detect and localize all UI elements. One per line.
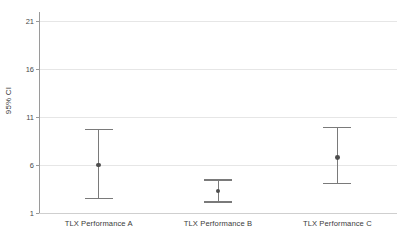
y-axis-tick-label: 6 bbox=[30, 161, 34, 170]
y-axis-tick-label: 16 bbox=[26, 65, 34, 74]
gridline bbox=[40, 69, 397, 70]
error-bar-cap-lower bbox=[204, 201, 232, 202]
y-axis-tick-mark bbox=[36, 117, 39, 118]
x-axis-label: TLX Performance B bbox=[184, 219, 252, 228]
gridline bbox=[40, 165, 397, 166]
error-bar-cap-lower bbox=[323, 183, 351, 184]
y-axis-tick-label: 11 bbox=[26, 113, 34, 122]
error-bar-cap-upper bbox=[204, 179, 232, 180]
mean-marker bbox=[216, 189, 221, 194]
x-axis-line bbox=[39, 213, 397, 214]
mean-marker bbox=[335, 155, 340, 160]
y-axis-tick-mark bbox=[36, 21, 39, 22]
x-axis-label: TLX Performance C bbox=[303, 219, 372, 228]
gridline bbox=[40, 117, 397, 118]
y-axis-line bbox=[39, 12, 40, 214]
mean-marker bbox=[96, 163, 101, 168]
error-bar-chart: 95% CI 16111621 TLX Performance ATLX Per… bbox=[0, 0, 397, 249]
plot-area: 16111621 bbox=[39, 12, 397, 214]
y-axis-tick-label: 1 bbox=[30, 209, 34, 218]
gridline bbox=[40, 21, 397, 22]
error-bar-cap-lower bbox=[85, 198, 113, 199]
error-bar-cap-upper bbox=[85, 129, 113, 130]
y-axis-tick-label: 21 bbox=[26, 17, 34, 26]
y-axis-title: 95% CI bbox=[4, 71, 13, 131]
x-axis-label: TLX Performance A bbox=[65, 219, 133, 228]
y-axis-tick-mark bbox=[36, 165, 39, 166]
y-axis-tick-mark bbox=[36, 69, 39, 70]
error-bar-cap-upper bbox=[323, 127, 351, 128]
